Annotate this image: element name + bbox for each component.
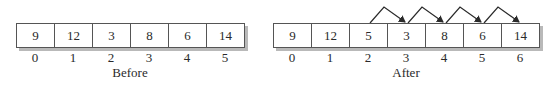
index-label: 6 [501,50,539,66]
index-label: 4 [425,50,463,66]
after-caption: After [273,65,539,81]
index-label: 2 [349,50,387,66]
index-label: 5 [463,50,501,66]
array-cell: 5 [350,24,388,47]
array-cell: 9 [274,24,312,47]
shift-arrow-icon [484,7,519,23]
array-cell: 12 [312,24,350,47]
array-cell: 8 [426,24,464,47]
shift-arrow-icon [446,7,481,23]
index-label: 1 [311,50,349,66]
array-cell: 14 [502,24,539,47]
index-label: 3 [387,50,425,66]
after-array: 9 12 5 3 8 6 14 [273,23,540,48]
index-label: 0 [273,50,311,66]
shift-arrow-icon [370,7,405,23]
array-cell: 6 [464,24,502,47]
after-indices: 0 1 2 3 4 5 6 [273,50,539,66]
array-cell: 3 [388,24,426,47]
shift-arrow-icon [408,7,443,23]
